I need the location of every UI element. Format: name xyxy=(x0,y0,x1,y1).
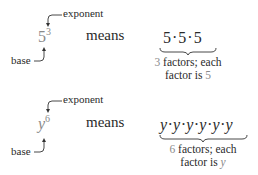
exponent-label: exponent xyxy=(63,7,103,19)
note-text: factor is xyxy=(180,156,220,168)
factor-value: y xyxy=(221,156,226,168)
power-expression: 53 xyxy=(38,28,51,46)
base-label: base xyxy=(11,54,31,66)
factor-note: 6 factors; each factor is y xyxy=(167,143,239,169)
factor-value: 5 xyxy=(205,69,211,81)
power-expression: y6 xyxy=(38,115,50,133)
exponent-value: 3 xyxy=(46,26,51,37)
exponent-label: exponent xyxy=(63,93,103,105)
expansion: y·y·y·y·y·y xyxy=(160,116,234,134)
means-label: means xyxy=(86,114,124,131)
base-label: base xyxy=(11,145,31,157)
factor-note: 3 factors; each factor is 5 xyxy=(152,56,224,82)
note-text: factors; each xyxy=(160,56,221,68)
means-label: means xyxy=(86,27,124,44)
note-text: factors; each xyxy=(175,143,236,155)
note-text: factor is xyxy=(165,69,205,81)
expansion: 5·5·5 xyxy=(163,29,203,47)
exponent-value: 6 xyxy=(45,113,50,124)
base-value: 5 xyxy=(38,28,46,45)
